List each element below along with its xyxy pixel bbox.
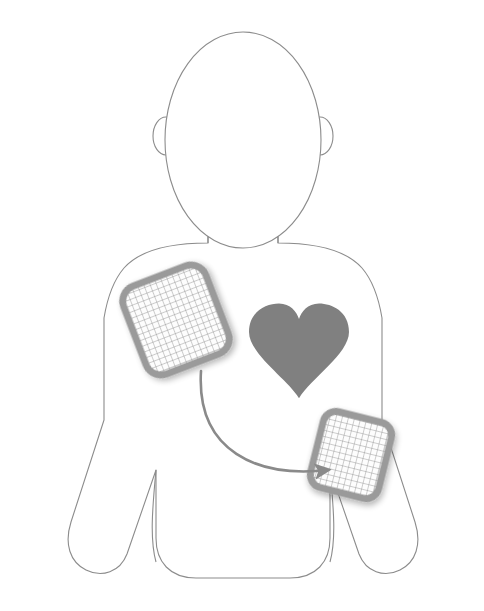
torso-outline-shape <box>68 237 418 578</box>
pad-lower-left-chest[interactable] <box>308 409 395 502</box>
head-shape <box>165 32 321 248</box>
diagram-canvas <box>0 0 484 611</box>
defibrillator-pad-placement-diagram <box>0 0 484 611</box>
left-armpit-line <box>152 470 156 562</box>
